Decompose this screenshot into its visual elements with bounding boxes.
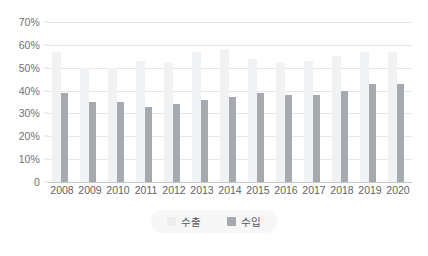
y-axis: 010%20%30%40%50%60%70%: [0, 22, 44, 182]
bar-export[interactable]: [388, 52, 397, 182]
y-axis-tick-label: 0: [34, 176, 40, 188]
x-axis-tick-label: 2018: [330, 184, 353, 196]
chart-legend[interactable]: 수출수입: [151, 210, 277, 233]
y-axis-tick-label: 30%: [19, 107, 40, 119]
bar-import[interactable]: [61, 93, 68, 182]
x-axis-tick-label: 2008: [50, 184, 73, 196]
bar-group: [160, 22, 188, 182]
bar-group: [356, 22, 384, 182]
bar-export[interactable]: [304, 61, 313, 182]
bar-import[interactable]: [313, 95, 320, 182]
bar-group: [48, 22, 76, 182]
bar-import[interactable]: [229, 97, 236, 182]
x-axis-tick-label: 2020: [386, 184, 409, 196]
bar-group: [188, 22, 216, 182]
legend-item-export[interactable]: 수출: [167, 214, 201, 229]
bar-group: [272, 22, 300, 182]
x-axis-tick-label: 2017: [302, 184, 325, 196]
bar-export[interactable]: [360, 52, 369, 182]
x-axis-tick-label: 2012: [162, 184, 185, 196]
y-axis-tick-label: 50%: [19, 62, 40, 74]
bar-export[interactable]: [52, 52, 61, 182]
bar-chart-card: 010%20%30%40%50%60%70% 20082009201020112…: [0, 0, 428, 256]
legend-swatch-icon: [227, 217, 236, 226]
bar-group: [76, 22, 104, 182]
y-axis-tick-label: 60%: [19, 39, 40, 51]
x-axis-tick-label: 2015: [246, 184, 269, 196]
bar-export[interactable]: [276, 63, 285, 182]
legend-swatch-icon: [167, 217, 176, 226]
x-axis-tick-label: 2013: [190, 184, 213, 196]
bar-import[interactable]: [201, 100, 208, 182]
bar-group: [300, 22, 328, 182]
x-axis-tick-label: 2016: [274, 184, 297, 196]
y-axis-tick-label: 20%: [19, 130, 40, 142]
bar-group: [244, 22, 272, 182]
bar-import[interactable]: [117, 102, 124, 182]
x-axis-tick-label: 2014: [218, 184, 241, 196]
bar-export[interactable]: [164, 63, 173, 182]
y-axis-tick-label: 70%: [19, 16, 40, 28]
bar-import[interactable]: [257, 93, 264, 182]
bar-group: [384, 22, 412, 182]
bar-export[interactable]: [108, 68, 117, 182]
bar-import[interactable]: [397, 84, 404, 182]
bar-export[interactable]: [80, 68, 89, 182]
bar-group: [104, 22, 132, 182]
bar-export[interactable]: [192, 52, 201, 182]
bar-group: [132, 22, 160, 182]
bar-import[interactable]: [285, 95, 292, 182]
bar-export[interactable]: [220, 49, 229, 182]
bar-import[interactable]: [369, 84, 376, 182]
x-axis-tick-label: 2019: [358, 184, 381, 196]
bar-import[interactable]: [89, 102, 96, 182]
bar-export[interactable]: [332, 56, 341, 182]
x-axis-tick-label: 2009: [78, 184, 101, 196]
x-axis-tick-label: 2011: [135, 184, 158, 196]
plot-area: [48, 22, 412, 182]
legend-item-import[interactable]: 수입: [227, 214, 261, 229]
bar-group: [216, 22, 244, 182]
legend-label: 수출: [181, 214, 201, 229]
bar-import[interactable]: [173, 104, 180, 182]
x-axis-line: [48, 182, 412, 183]
y-axis-tick-label: 40%: [19, 85, 40, 97]
bar-import[interactable]: [145, 107, 152, 182]
x-axis-tick-label: 2010: [106, 184, 129, 196]
bar-group: [328, 22, 356, 182]
bar-import[interactable]: [341, 91, 348, 182]
y-axis-tick-label: 10%: [19, 153, 40, 165]
x-axis: 2008200920102011201220132014201520162017…: [48, 184, 412, 200]
bar-export[interactable]: [248, 59, 257, 182]
bar-export[interactable]: [136, 61, 145, 182]
legend-label: 수입: [241, 214, 261, 229]
